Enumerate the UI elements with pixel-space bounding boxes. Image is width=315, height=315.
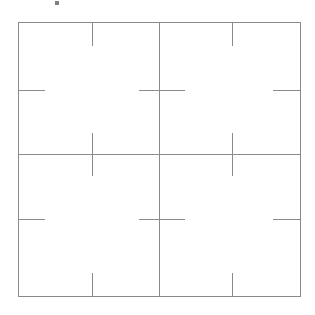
canvas-background [0,0,315,315]
grid-diagram [0,0,315,315]
figure-canvas [0,0,315,315]
page-artifact-mark [55,1,59,5]
